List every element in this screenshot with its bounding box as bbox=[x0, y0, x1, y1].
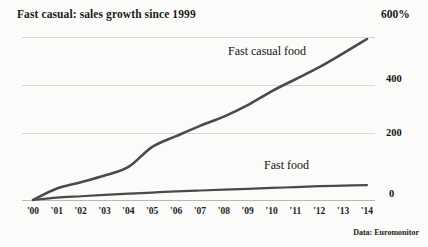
x-axis-tick-13: '13 bbox=[337, 206, 349, 216]
x-axis-labels: '00'01'02'03'04'05'06'07'08'09'10'11'12'… bbox=[0, 206, 428, 222]
x-axis-tick-03: '03 bbox=[99, 206, 111, 216]
x-axis-tick-09: '09 bbox=[242, 206, 254, 216]
line-fast-food bbox=[33, 185, 367, 200]
source-note: Data: Euromonitor bbox=[353, 228, 419, 237]
x-axis-tick-07: '07 bbox=[194, 206, 206, 216]
x-axis-tick-05: '05 bbox=[146, 206, 158, 216]
line-fast-casual-food bbox=[33, 39, 367, 200]
x-axis-tick-10: '10 bbox=[266, 206, 278, 216]
x-axis-tick-11: '11 bbox=[290, 206, 302, 216]
x-axis-tick-06: '06 bbox=[170, 206, 182, 216]
series-label-fast-food: Fast food bbox=[264, 158, 309, 173]
x-axis-tick-12: '12 bbox=[313, 206, 325, 216]
plot-area: 600% 400 200 0 Fast casual food Fast foo… bbox=[0, 0, 428, 247]
series-label-fast-casual-food: Fast casual food bbox=[228, 44, 306, 59]
x-axis-tick-01: '01 bbox=[51, 206, 63, 216]
x-axis-tick-02: '02 bbox=[75, 206, 87, 216]
x-axis-tick-04: '04 bbox=[122, 206, 134, 216]
x-axis-tick-14: '14 bbox=[361, 206, 373, 216]
x-axis-tick-00: '00 bbox=[27, 206, 39, 216]
x-axis-tick-08: '08 bbox=[218, 206, 230, 216]
chart-container: Fast casual: sales growth since 1999 600… bbox=[0, 0, 428, 247]
